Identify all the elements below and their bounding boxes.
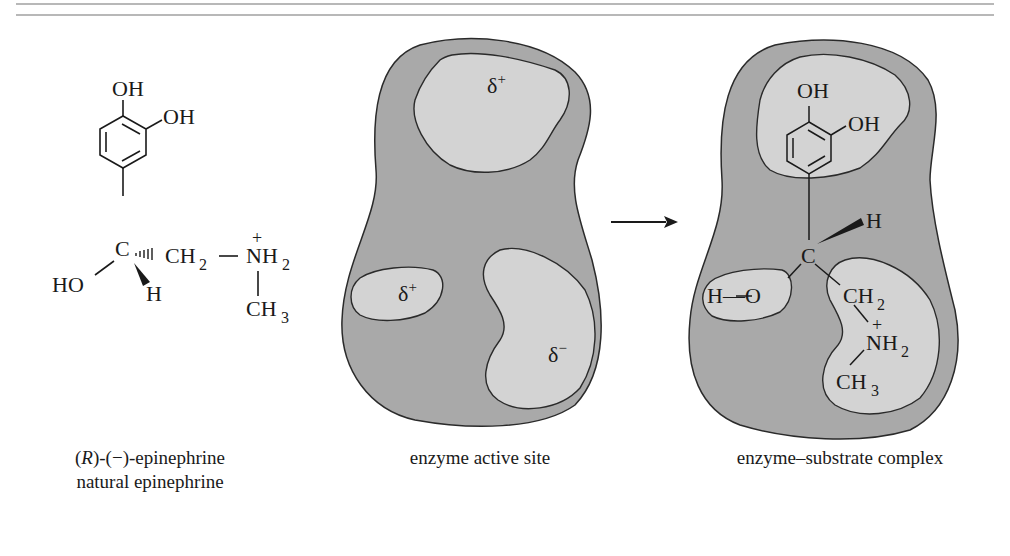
complex-atom-ch2: CH xyxy=(843,283,874,308)
atom-oh-side: OH xyxy=(163,104,195,129)
complex-atom-nh2-subscript: 2 xyxy=(901,343,909,360)
atom-nh2-subscript: 2 xyxy=(282,256,290,273)
caption-complex: enzyme–substrate complex xyxy=(710,446,970,470)
complex-atom-h-o: H—O xyxy=(707,283,761,308)
complex-atom-ch3-subscript: 3 xyxy=(871,382,879,399)
bond-c-ho xyxy=(95,261,114,275)
caption-active-site: enzyme active site xyxy=(380,446,580,470)
hashed-wedge-bond xyxy=(136,248,152,260)
complex-atom-nh2: NH xyxy=(866,330,898,355)
atom-ch2-subscript: 2 xyxy=(199,256,207,273)
enzyme-active-site: δ+ δ+ δ− xyxy=(342,39,601,427)
atom-ch3-subscript: 3 xyxy=(281,309,289,326)
complex-atom-oh-side: OH xyxy=(848,111,880,136)
bond-oh-side xyxy=(146,120,162,129)
atom-ch3: CH xyxy=(246,296,277,321)
complex-atom-oh-top: OH xyxy=(797,78,829,103)
atom-oh-top: OH xyxy=(112,76,144,101)
atom-h: H xyxy=(146,281,162,306)
complex-atom-c: C xyxy=(801,243,816,268)
complex-atom-ch3: CH xyxy=(836,369,867,394)
atom-nh2: NH xyxy=(246,243,278,268)
caption-epinephrine-line2: natural epinephrine xyxy=(50,470,250,494)
complex-atom-ch2-subscript: 2 xyxy=(877,296,885,313)
complex-atom-h: H xyxy=(866,208,882,233)
enzyme-substrate-complex: OH OH H C H—O CH 2 + NH 2 CH 3 xyxy=(689,40,958,439)
atom-ch2: CH xyxy=(165,243,196,268)
epinephrine-atom-labels: OH OH C CH 2 + NH 2 HO H CH 3 xyxy=(52,76,290,326)
ring-double-bond xyxy=(122,124,140,134)
reaction-arrow xyxy=(611,216,678,228)
atom-c: C xyxy=(115,236,130,261)
atom-ho: HO xyxy=(52,272,84,297)
caption-epinephrine: (R)-(−)-epinephrine natural epinephrine xyxy=(50,446,250,494)
caption-epinephrine-line1: (R)-(−)-epinephrine xyxy=(50,446,250,470)
